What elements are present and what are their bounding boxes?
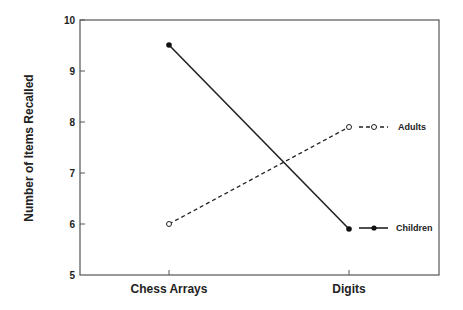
- legend-label-adults: Adults: [398, 122, 426, 132]
- y-tick-label: 9: [69, 66, 75, 77]
- y-tick-label: 8: [69, 117, 75, 128]
- plot-frame: [80, 20, 439, 275]
- legend-marker-children: [371, 225, 376, 230]
- y-tick-label: 6: [69, 219, 75, 230]
- data-point: [166, 42, 172, 48]
- data-point: [347, 125, 352, 130]
- y-tick-label: 5: [69, 270, 75, 281]
- y-axis: 10 9 8 7 6 5: [64, 15, 85, 281]
- x-axis: Chess Arrays Digits: [131, 270, 366, 296]
- y-axis-label: Number of Items Recalled: [22, 74, 36, 221]
- line-chart: 10 9 8 7 6 5 Number of Items Recalled Ch…: [0, 0, 463, 310]
- y-tick-label: 7: [69, 168, 75, 179]
- legend-label-children: Children: [396, 223, 433, 233]
- y-tick-label: 10: [64, 15, 76, 26]
- x-category-label: Chess Arrays: [131, 282, 208, 296]
- x-category-label: Digits: [332, 282, 366, 296]
- legend-marker-adults: [372, 125, 377, 130]
- data-point: [167, 222, 172, 227]
- data-point: [346, 226, 352, 232]
